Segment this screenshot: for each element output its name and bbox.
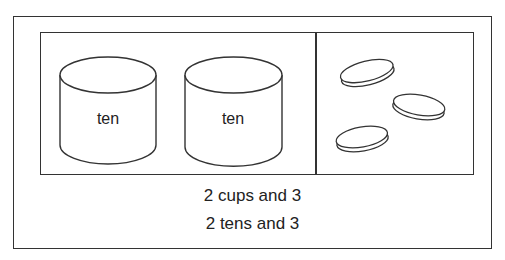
cup-label-2: ten (222, 110, 244, 127)
caption-cups: 2 cups and 3 (13, 186, 492, 206)
cup-label-1: ten (97, 110, 119, 127)
one-disc-3 (334, 123, 389, 156)
one-disc-1 (338, 55, 396, 91)
caption-tens: 2 tens and 3 (13, 214, 492, 234)
one-disc-2 (391, 91, 446, 124)
